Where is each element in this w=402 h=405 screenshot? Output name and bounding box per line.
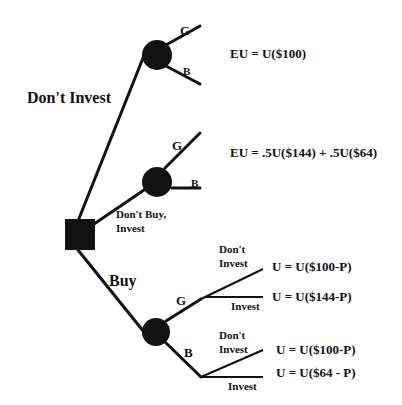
label-buy: Buy bbox=[109, 273, 137, 289]
label-bad-invest: Invest bbox=[228, 379, 257, 393]
label-dont-buy-invest: Don't Buy, Invest bbox=[116, 207, 166, 235]
label-good-dont-line2: Invest bbox=[219, 256, 248, 270]
label-bad-dont-line2: Invest bbox=[219, 342, 248, 356]
outcome-good-dont-invest: U = U($100-P) bbox=[272, 260, 352, 273]
outcome-top: EU = U($100) bbox=[230, 47, 306, 60]
label-bad-dont-line1: Don't bbox=[219, 328, 248, 342]
decision-node-square bbox=[65, 219, 95, 250]
decision-tree-diagram: Don't Invest Don't Buy, Invest Buy G B E… bbox=[0, 0, 402, 405]
bottom-bad-line bbox=[165, 342, 201, 377]
branch-buy bbox=[78, 250, 144, 332]
label-top-bad: B bbox=[183, 64, 190, 78]
label-good-invest: Invest bbox=[231, 299, 260, 313]
label-middle-good: G bbox=[172, 139, 182, 152]
outcome-middle: EU = .5U($144) + .5U($64) bbox=[230, 146, 377, 159]
label-bottom-bad: B bbox=[184, 346, 193, 359]
outcome-bad-invest: U = U($64 - P) bbox=[276, 366, 356, 379]
chance-node-middle bbox=[142, 167, 172, 197]
label-dont-buy-line1: Don't Buy, bbox=[116, 207, 166, 221]
label-dont-invest: Don't Invest bbox=[27, 90, 111, 106]
good-dont-invest-line bbox=[201, 269, 263, 299]
chance-node-bottom bbox=[142, 318, 170, 346]
middle-good-line bbox=[165, 133, 200, 168]
outcome-good-invest: U = U($144-P) bbox=[272, 290, 352, 303]
label-bottom-good: G bbox=[176, 294, 186, 307]
label-good-dont-invest: Don't Invest bbox=[219, 242, 248, 270]
outcome-bad-dont-invest: U = U($100-P) bbox=[276, 343, 356, 356]
chance-node-top bbox=[142, 40, 172, 70]
label-middle-bad: B bbox=[191, 176, 198, 190]
label-dont-buy-line2: Invest bbox=[116, 221, 166, 235]
label-top-good: G bbox=[180, 24, 190, 37]
label-bad-dont-invest: Don't Invest bbox=[219, 328, 248, 356]
label-good-dont-line1: Don't bbox=[219, 242, 248, 256]
